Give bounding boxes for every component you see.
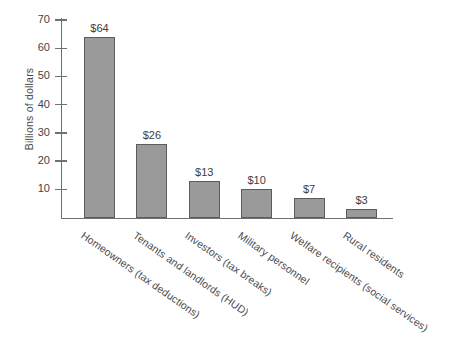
bar xyxy=(136,144,167,217)
y-axis-tick xyxy=(55,104,67,105)
x-axis-category-label: Investors (tax breaks) xyxy=(183,229,274,298)
y-axis-tick xyxy=(55,48,67,49)
y-axis-tick-label-text: 40 xyxy=(8,98,50,110)
y-axis-tick-label-text: 30 xyxy=(8,126,50,138)
bar-value-label: $26 xyxy=(122,129,182,141)
bar xyxy=(294,198,325,218)
bar-value-label: $64 xyxy=(70,22,130,34)
bar xyxy=(346,209,377,217)
bar-value-label: $3 xyxy=(332,194,392,206)
bar-value-label: $7 xyxy=(279,183,339,195)
y-axis-tick xyxy=(55,189,67,190)
bar xyxy=(241,189,272,217)
bar xyxy=(189,181,220,218)
bar-chart: Billions of dollars 10203040506070 $64$2… xyxy=(0,0,450,356)
y-axis-tick-label-text: 60 xyxy=(8,41,50,53)
y-axis-tick-label-text: 50 xyxy=(8,69,50,81)
y-axis-tick-label-text: 70 xyxy=(8,13,50,25)
y-axis-tick xyxy=(55,19,67,20)
bar xyxy=(84,37,115,218)
y-axis-tick xyxy=(55,160,67,161)
bar-value-label: $13 xyxy=(174,166,234,178)
x-axis-line xyxy=(61,218,393,219)
bar-value-label: $10 xyxy=(227,174,287,186)
y-axis-tick xyxy=(55,76,67,77)
y-axis-tick-label-text: 20 xyxy=(8,154,50,166)
y-axis-tick-label-text: 10 xyxy=(8,182,50,194)
y-axis-tick xyxy=(55,132,67,133)
